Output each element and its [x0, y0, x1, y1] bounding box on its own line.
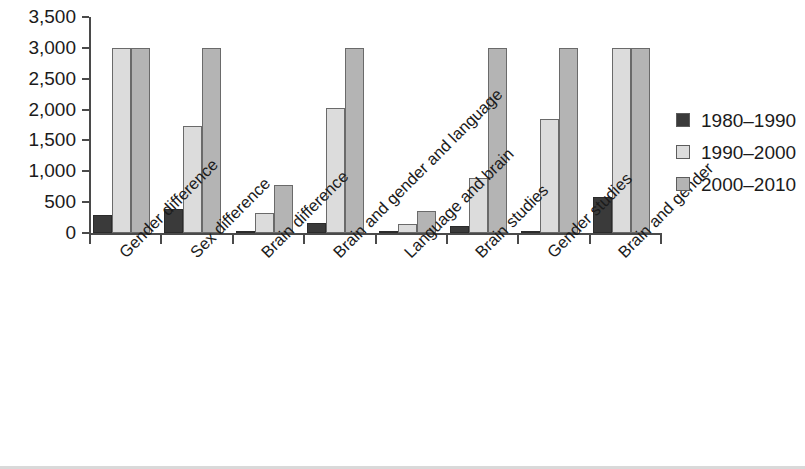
legend: 1980–19901990–20002000–2010 — [676, 104, 796, 200]
x-tick-mark — [303, 235, 305, 244]
y-tick-label-text: 2,500 — [28, 69, 76, 89]
y-tick-label-text: 1,500 — [28, 130, 76, 150]
y-tick-label-text: 2,000 — [28, 100, 76, 120]
x-tick-mark — [446, 235, 448, 244]
y-tick-mark — [82, 170, 89, 172]
y-tick-label-text: 3,500 — [28, 7, 76, 27]
bar — [112, 48, 131, 233]
bar — [398, 224, 417, 233]
x-tick-mark — [232, 235, 234, 244]
y-tick-label-text: 0 — [65, 223, 76, 243]
bar — [307, 223, 326, 233]
bar — [612, 48, 631, 233]
legend-item: 1990–2000 — [676, 136, 796, 168]
bar — [450, 226, 469, 233]
legend-swatch-icon — [676, 177, 690, 191]
bar — [488, 48, 507, 233]
y-tick-mark — [82, 47, 89, 49]
x-tick-mark — [517, 235, 519, 244]
y-tick-mark — [82, 109, 89, 111]
bar — [236, 231, 255, 233]
y-axis-labels: 05001,0001,5002,0002,5003,0003,500 — [0, 0, 84, 240]
x-tick-mark — [375, 235, 377, 244]
x-tick-mark — [660, 235, 662, 244]
legend-label: 2000–2010 — [701, 175, 796, 194]
legend-item: 2000–2010 — [676, 168, 796, 200]
y-tick-label-text: 500 — [44, 192, 76, 212]
y-tick-mark — [82, 139, 89, 141]
bar — [202, 48, 221, 233]
bar — [93, 215, 112, 234]
legend-label: 1990–2000 — [701, 143, 796, 162]
bar — [521, 231, 540, 233]
bar — [345, 48, 364, 233]
y-tick-mark — [82, 201, 89, 203]
y-tick-mark — [82, 78, 89, 80]
y-tick-mark — [82, 232, 89, 234]
legend-label: 1980–1990 — [701, 111, 796, 130]
bar — [255, 213, 274, 233]
legend-swatch-icon — [676, 145, 690, 159]
x-tick-mark — [160, 235, 162, 244]
bar — [631, 48, 650, 233]
y-tick-mark — [82, 16, 89, 18]
bar — [131, 48, 150, 233]
legend-item: 1980–1990 — [676, 104, 796, 136]
y-tick-label-text: 1,000 — [28, 161, 76, 181]
bar — [559, 48, 578, 233]
bar — [540, 119, 559, 233]
bar — [379, 231, 398, 233]
x-tick-mark — [89, 235, 91, 244]
y-tick-label-text: 3,000 — [28, 38, 76, 58]
x-tick-mark — [589, 235, 591, 244]
bar-chart: 05001,0001,5002,0002,5003,0003,500 Gende… — [0, 0, 805, 469]
legend-swatch-icon — [676, 113, 690, 127]
